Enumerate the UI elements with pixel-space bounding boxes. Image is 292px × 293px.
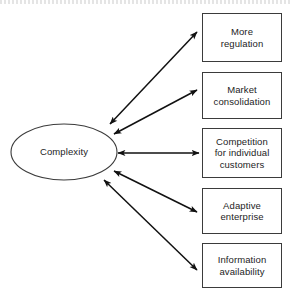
- node-box-information-availability[interactable]: Information availability: [202, 243, 282, 288]
- node-box-market-consolidation[interactable]: Market consolidation: [202, 72, 282, 119]
- edge-complexity-market-consolidation: [114, 90, 197, 134]
- complexity-ellipse-label: Complexity: [11, 146, 117, 157]
- node-label-information-availability: Information availability: [215, 254, 270, 277]
- edge-complexity-adaptive-enterprise: [114, 171, 197, 212]
- edge-complexity-information-availability: [104, 180, 197, 270]
- node-label-more-regulation: More regulation: [218, 26, 267, 49]
- node-label-competition: Competition for individual customers: [212, 136, 273, 171]
- diagram-canvas: Complexity More regulation Market consol…: [0, 0, 292, 293]
- node-box-competition[interactable]: Competition for individual customers: [202, 128, 282, 178]
- node-label-market-consolidation: Market consolidation: [211, 84, 274, 107]
- node-label-adaptive-enterprise: Adaptive enterprise: [217, 200, 266, 223]
- node-box-adaptive-enterprise[interactable]: Adaptive enterprise: [202, 188, 282, 234]
- node-box-more-regulation[interactable]: More regulation: [202, 13, 282, 62]
- edge-complexity-more-regulation: [110, 32, 197, 124]
